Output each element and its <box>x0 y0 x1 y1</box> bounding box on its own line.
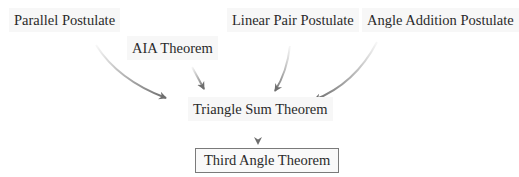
node-angle-addition-postulate: Angle Addition Postulate <box>362 8 519 32</box>
arrow-angle-addition-to-triangle-sum <box>314 42 377 100</box>
node-label: Parallel Postulate <box>14 12 115 28</box>
arrow-linear-pair-to-triangle-sum <box>275 46 290 91</box>
node-parallel-postulate: Parallel Postulate <box>9 8 120 32</box>
node-third-angle-theorem: Third Angle Theorem <box>195 148 339 173</box>
node-label: Linear Pair Postulate <box>232 12 354 28</box>
node-label: Angle Addition Postulate <box>367 12 514 28</box>
node-triangle-sum-theorem: Triangle Sum Theorem <box>188 97 333 121</box>
node-label: Triangle Sum Theorem <box>193 101 328 117</box>
node-aia-theorem: AIA Theorem <box>127 36 218 60</box>
node-label: AIA Theorem <box>132 40 213 56</box>
arrow-aia-to-triangle-sum <box>192 67 204 89</box>
node-label: Third Angle Theorem <box>204 152 330 168</box>
node-linear-pair-postulate: Linear Pair Postulate <box>227 8 359 32</box>
